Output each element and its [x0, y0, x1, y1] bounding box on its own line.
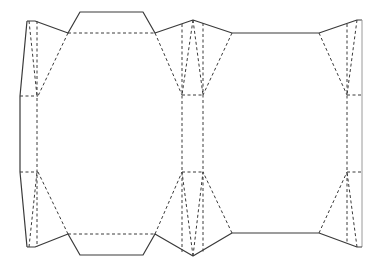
front-diag-top-left [38, 33, 68, 96]
middle-diag-br [193, 172, 203, 256]
bottom-edge-cut-left [27, 233, 232, 256]
front-diag-top-right [155, 33, 182, 95]
left-flap-diag-bottom [29, 172, 37, 247]
left-flap-diag-top [29, 21, 37, 96]
middle-diag-bl [182, 172, 193, 256]
back-diag-top-left [203, 33, 232, 95]
back-diag-bottom-left [203, 172, 232, 233]
right-diag-bottom-inner [347, 172, 357, 247]
top-edge-cut-right [232, 20, 362, 33]
cut-lines [20, 12, 362, 256]
front-diag-bottom-left [38, 172, 68, 234]
bottom-edge-cut-right [232, 233, 362, 247]
box-dieline-diagram [0, 0, 390, 270]
fold-lines [20, 20, 362, 256]
top-edge-cut-left [27, 12, 232, 33]
front-diag-bottom-right [155, 172, 182, 234]
left-edge-cut [20, 21, 27, 247]
right-diag-top-inner [347, 20, 357, 95]
middle-diag-tr [193, 20, 203, 95]
right-diag-bottom [319, 172, 347, 233]
right-diag-top [319, 33, 347, 95]
middle-diag-tl [182, 20, 193, 95]
